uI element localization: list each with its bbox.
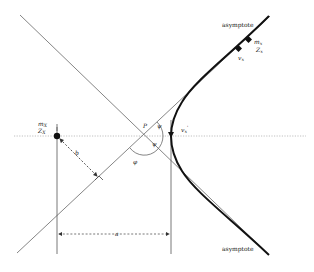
diagram: asymptote asymptote mX ZX mx Zx vx vx' P… (0, 0, 314, 272)
svg-text:ZX: ZX (37, 127, 46, 135)
test-charge-subscript: x (260, 49, 263, 54)
svg-text:Zx: Zx (255, 46, 263, 54)
impact-parameter-label: b (75, 149, 79, 156)
velocity-periapsis-label: vx' (181, 125, 188, 134)
asymptote-label-bottom: asymptote (222, 245, 254, 253)
perturber-label: mX ZX (37, 120, 48, 135)
angle-phi-arc (130, 148, 157, 155)
test-particle-label: mx Zx (254, 38, 263, 54)
svg-text:mx: mx (254, 38, 263, 46)
perturber-charge-subscript: X (41, 130, 46, 135)
perturber-body-dot (54, 133, 60, 139)
hyperbolic-trajectory (171, 16, 269, 255)
distance-a-label: a (115, 230, 119, 237)
diagram-canvas: asymptote asymptote mX ZX mx Zx vx vx' P… (0, 0, 314, 272)
angle-psi-upper-label: ψ (157, 122, 162, 130)
point-p-label: P (142, 122, 148, 129)
angle-psi-lower-label: ψ (152, 140, 157, 148)
asymptote-label-top: asymptote (222, 21, 254, 29)
impact-parameter-dashed-line (60, 139, 97, 176)
perturber-mass-subscript: X (43, 123, 48, 128)
angle-phi-label: φ (133, 158, 138, 166)
velocity-initial-label: vx (238, 54, 244, 62)
periapsis-velocity-arrow (168, 132, 174, 138)
